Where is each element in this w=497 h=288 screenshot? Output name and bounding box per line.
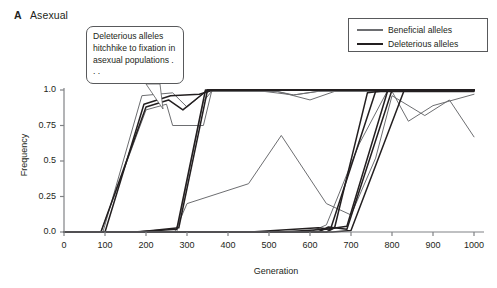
series-line — [64, 90, 474, 232]
series-line — [64, 90, 474, 232]
y-tick-label: 0.5 — [12, 155, 56, 165]
legend-item-beneficial: Beneficial alleles — [357, 23, 452, 36]
x-tick-label: 300 — [167, 240, 207, 250]
series-line — [64, 90, 474, 232]
y-tick-label: 1.0 — [12, 84, 56, 94]
series-line — [64, 90, 474, 232]
legend-swatch-beneficial — [357, 29, 383, 31]
x-tick-label: 100 — [85, 240, 125, 250]
chart-legend: Beneficial alleles Deleterious alleles — [348, 18, 488, 52]
x-tick-label: 600 — [290, 240, 330, 250]
axes-group — [60, 88, 484, 236]
x-tick-label: 1000 — [454, 240, 494, 250]
x-tick-label: 900 — [413, 240, 453, 250]
legend-label-beneficial: Beneficial alleles — [388, 25, 452, 35]
y-tick-label: 0.25 — [12, 191, 56, 201]
figure-panel-a: A Asexual Frequency Generation 0.00.250.… — [0, 0, 497, 288]
x-tick-label: 400 — [208, 240, 248, 250]
series-line — [64, 90, 474, 232]
annotation-text: Deleterious alleles hitchhike to fixatio… — [93, 31, 175, 76]
x-tick-label: 200 — [126, 240, 166, 250]
annotation-callout: Deleterious alleles hitchhike to fixatio… — [86, 26, 184, 84]
y-tick-label: 0.75 — [12, 120, 56, 130]
x-tick-label: 0 — [44, 240, 84, 250]
series-group — [64, 90, 474, 232]
series-line — [64, 90, 474, 232]
series-line — [64, 90, 474, 232]
x-axis-title: Generation — [64, 266, 488, 276]
legend-label-deleterious: Deleterious alleles — [388, 39, 458, 49]
x-tick-label: 700 — [331, 240, 371, 250]
legend-swatch-deleterious — [357, 43, 383, 45]
x-tick-label: 500 — [249, 240, 289, 250]
series-line — [64, 90, 474, 232]
annotation-pointer — [146, 84, 163, 109]
x-tick-label: 800 — [372, 240, 412, 250]
series-line — [64, 90, 474, 232]
y-tick-label: 0.0 — [12, 226, 56, 236]
legend-item-deleterious: Deleterious alleles — [357, 37, 458, 50]
series-line — [64, 90, 474, 232]
